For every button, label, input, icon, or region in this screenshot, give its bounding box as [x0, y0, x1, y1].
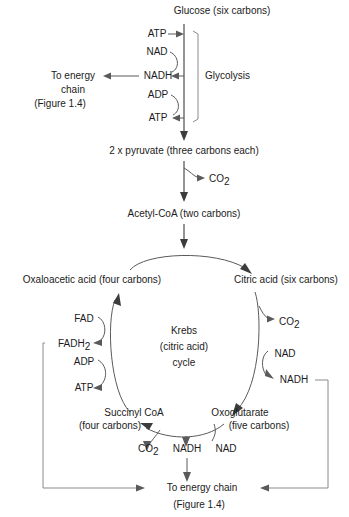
krebs-nadh-connector — [268, 380, 328, 488]
oxoglutarate-sub: (five carbons) — [229, 420, 290, 431]
succinyl-coa-label: Succinyl CoA — [104, 407, 164, 418]
glycolysis-spine-arrowhead — [180, 131, 188, 141]
krebs-fadh2-arrowhead — [93, 339, 102, 346]
krebs-fad-curve — [98, 317, 105, 340]
krebs-left-connector-arrowhead — [136, 485, 145, 492]
krebs-center-line3: cycle — [173, 357, 196, 368]
krebs-atp-label: ATP — [75, 382, 94, 393]
acetyl-to-krebs-arrowhead — [180, 239, 188, 249]
krebs-bottom-nad-curve — [212, 424, 215, 441]
krebs-entry-arc — [130, 255, 245, 270]
glycolysis-nad-label: NAD — [146, 46, 167, 57]
krebs-adp-label: ADP — [74, 356, 95, 367]
acetyl-coa-label: Acetyl-CoA (two carbons) — [128, 208, 241, 219]
footer-energy-chain-label: To energy chain — [167, 482, 238, 493]
glycolysis-energy-chain-line2: chain — [61, 84, 85, 95]
krebs-fad-label: FAD — [74, 313, 93, 324]
krebs-bottom-nadh-label: NADH — [173, 443, 201, 454]
glycolysis-to-energy-arrowhead — [103, 73, 111, 80]
krebs-arc-bottom — [146, 424, 224, 437]
krebs-nadh-down-arrowhead — [183, 472, 191, 482]
glycolysis-nadh-label: NADH — [144, 70, 172, 81]
krebs-center-line1: Krebs — [171, 325, 197, 336]
link-reaction-co2-curve — [184, 168, 199, 178]
glycolysis-nad-curve — [170, 52, 177, 72]
krebs-bottom-nad-label: NAD — [215, 443, 236, 454]
pyruvate-to-acetyl-arrowhead — [180, 192, 188, 202]
krebs-arc-right — [237, 292, 259, 410]
citric-acid-label: Citric acid (six carbons) — [234, 274, 338, 285]
glycolysis-bracket — [193, 31, 198, 122]
figure-canvas: Glucose (six carbons) ATP NAD NADH ADP A… — [0, 0, 349, 517]
footer-figure-ref: (Figure 1.4) — [173, 499, 225, 510]
glycolysis-pathway-label: Glycolysis — [205, 70, 250, 81]
glycolysis-atp-out-arrowhead — [172, 115, 180, 122]
link-reaction-co2-arrowhead — [197, 175, 205, 182]
glycolysis-energy-chain-line3: (Figure 1.4) — [34, 98, 86, 109]
metabolism-diagram: Glucose (six carbons) ATP NAD NADH ADP A… — [0, 0, 349, 517]
krebs-arc-left-arrowhead — [113, 293, 121, 306]
krebs-nadh-label: NADH — [280, 374, 308, 385]
krebs-bottom-co2-label: CO2 — [138, 443, 159, 457]
krebs-co2-label: CO2 — [279, 316, 300, 330]
link-reaction-co2-label: CO2 — [209, 173, 230, 187]
oxoglutarate-label: Oxoglutarate — [211, 407, 269, 418]
krebs-center-line2: (citric acid) — [160, 341, 208, 352]
krebs-arc-bottom-arrowhead — [140, 423, 153, 430]
succinyl-coa-sub: (four carbons) — [79, 420, 141, 431]
glycolysis-energy-chain-line1: To energy — [51, 70, 95, 81]
pyruvate-label: 2 x pyruvate (three carbons each) — [109, 145, 259, 156]
glycolysis-atp-in-arrowhead — [176, 31, 184, 38]
glycolysis-adp-label: ADP — [148, 89, 169, 100]
glycolysis-atp-in-label: ATP — [148, 28, 167, 39]
krebs-nadh-connector-arrowhead — [260, 485, 269, 492]
glycolysis-nadh-arrowhead — [171, 73, 179, 80]
krebs-adp-curve — [98, 360, 106, 385]
glucose-label: Glucose (six carbons) — [174, 5, 271, 16]
krebs-atp-arrowhead — [93, 384, 102, 391]
glycolysis-adp-curve — [171, 95, 178, 115]
krebs-nadh-in-arrowhead — [265, 369, 274, 379]
krebs-fadh2-label: FADH2 — [58, 338, 91, 352]
krebs-co2-arrowhead — [267, 316, 275, 323]
krebs-arc-left — [110, 300, 130, 412]
krebs-entry-arrowhead — [240, 263, 252, 274]
glycolysis-atp-out-label: ATP — [149, 112, 168, 123]
oxaloacetic-acid-label: Oxaloacetic acid (four carbons) — [23, 274, 161, 285]
krebs-nad-label: NAD — [274, 348, 295, 359]
